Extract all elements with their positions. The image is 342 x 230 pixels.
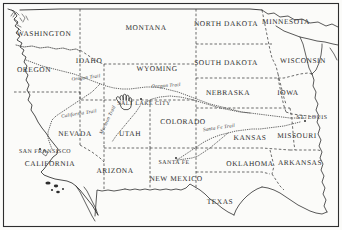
city-dot-salt-lake-city [140, 98, 142, 100]
city-dot-san-francisco [39, 148, 41, 150]
map-geometry [0, 0, 342, 230]
city-dot-santa-fe [175, 157, 177, 159]
city-dot-st-louis [304, 120, 306, 122]
map-background [0, 0, 342, 230]
historical-trails-map: WASHINGTON OREGON IDAHO MONTANA NORTH DA… [0, 0, 342, 230]
